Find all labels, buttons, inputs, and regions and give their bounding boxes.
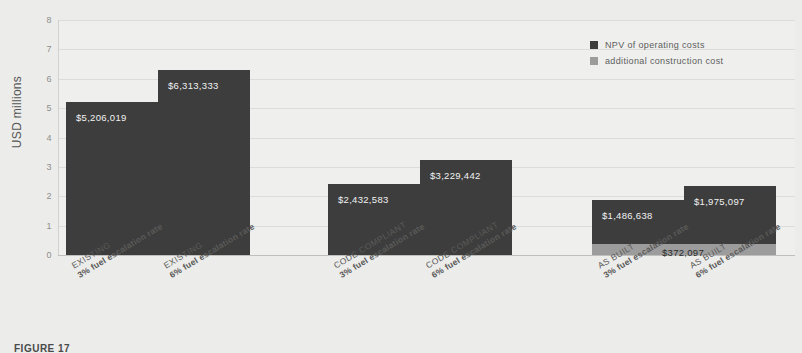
chart-figure: USD millions 012345678 $5,206,019$6,313,…	[0, 0, 802, 353]
bar-value-label: $3,229,442	[430, 170, 481, 181]
y-axis-tick-label: 1	[6, 221, 52, 231]
y-axis-tick-label: 7	[6, 44, 52, 54]
legend-label-construction: additional construction cost	[605, 56, 723, 66]
bar-value-label: $5,206,019	[76, 112, 127, 123]
y-axis-tick-label: 6	[6, 74, 52, 84]
bar-value-label: $2,432,583	[338, 194, 389, 205]
chart-legend: NPV of operating costs additional constr…	[590, 40, 723, 72]
legend-swatch-npv	[590, 41, 598, 49]
bar-value-label: $1,486,638	[602, 210, 653, 221]
legend-label-npv: NPV of operating costs	[605, 40, 705, 50]
y-axis: USD millions 012345678	[0, 0, 52, 353]
y-axis-line	[58, 20, 59, 256]
figure-caption: FIGURE 17	[14, 343, 70, 353]
legend-swatch-construction	[590, 57, 598, 65]
legend-item-construction: additional construction cost	[590, 56, 723, 66]
bar-value-label: $6,313,333	[168, 80, 219, 91]
bar-value-label: $1,975,097	[694, 196, 745, 207]
y-axis-tick-label: 3	[6, 162, 52, 172]
gridline	[58, 20, 795, 21]
y-axis-tick-label: 5	[6, 103, 52, 113]
y-axis-tick-label: 2	[6, 191, 52, 201]
y-axis-tick-label: 8	[6, 15, 52, 25]
legend-item-npv: NPV of operating costs	[590, 40, 723, 50]
y-axis-tick-label: 0	[6, 250, 52, 260]
y-axis-tick-label: 4	[6, 133, 52, 143]
